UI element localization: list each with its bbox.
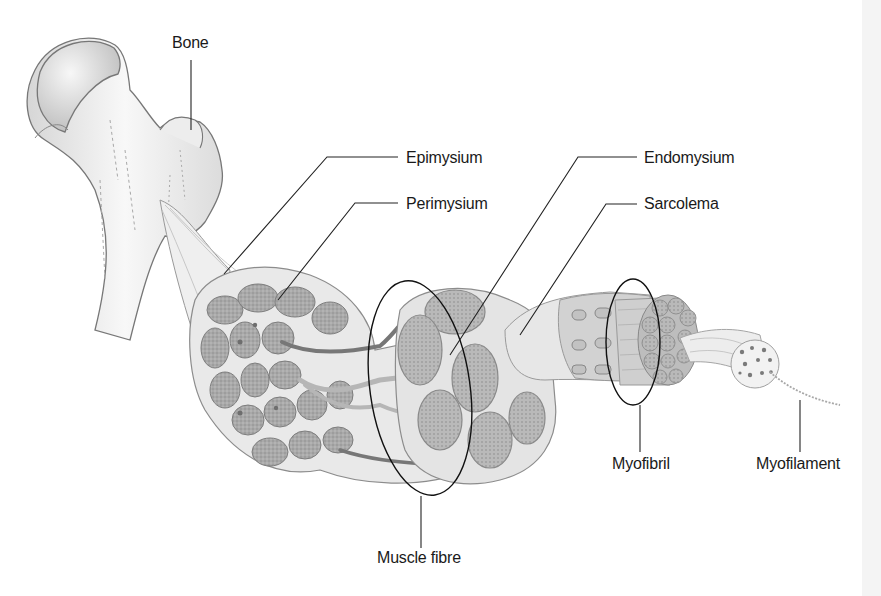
- muscle-structure-diagram: Bone Epimysium Perimysium Endomysium Sar…: [0, 0, 881, 596]
- label-endomysium: Endomysium: [644, 149, 734, 167]
- label-epimysium: Epimysium: [406, 149, 482, 167]
- label-perimysium: Perimysium: [406, 195, 488, 213]
- epimysium-leader: [224, 157, 398, 274]
- label-myofilament: Myofilament: [756, 455, 840, 473]
- label-bone: Bone: [172, 34, 209, 52]
- label-sarcolema: Sarcolema: [644, 195, 719, 213]
- muscle-illustration: [0, 0, 881, 596]
- label-muscle-fibre: Muscle fibre: [377, 549, 461, 567]
- label-myofibril: Myofibril: [612, 455, 670, 473]
- myofilament-illustration: [680, 329, 840, 405]
